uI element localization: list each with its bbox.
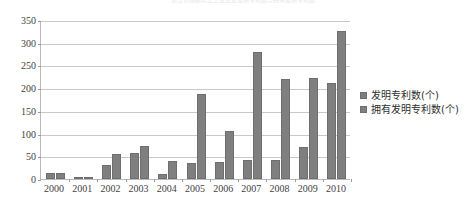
bar[interactable]	[140, 146, 149, 179]
bar-group	[46, 21, 65, 179]
x-axis-tick	[351, 179, 352, 182]
x-axis-tick-label: 2002	[96, 183, 124, 195]
x-axis-tick-label: 2004	[153, 183, 181, 195]
bar[interactable]	[84, 177, 93, 179]
bar-group	[299, 21, 318, 179]
x-axis-tick	[69, 179, 70, 182]
bar[interactable]	[253, 52, 262, 179]
y-axis-labels: 050100150200250300350	[0, 0, 36, 190]
x-axis-tick-label: 2010	[322, 183, 350, 195]
x-axis-tick-label: 2003	[125, 183, 153, 195]
bar-group	[215, 21, 234, 179]
x-axis-tick	[210, 179, 211, 182]
bar[interactable]	[130, 153, 139, 179]
bar[interactable]	[215, 162, 224, 179]
y-axis-tick-label: 350	[2, 16, 36, 26]
legend-item-label: 发明专利数(个)	[371, 90, 439, 101]
y-axis-tick-label: 50	[2, 152, 36, 162]
y-axis-tick	[38, 44, 41, 45]
bar[interactable]	[187, 163, 196, 179]
y-axis-tick-label: 0	[2, 175, 36, 185]
x-axis-tick-label: 2008	[265, 183, 293, 195]
x-axis-tick	[97, 179, 98, 182]
x-axis-tick	[295, 179, 296, 182]
y-axis-tick	[38, 89, 41, 90]
bar-group	[158, 21, 177, 179]
bar-group	[130, 21, 149, 179]
bar[interactable]	[225, 131, 234, 179]
x-axis-tick	[126, 179, 127, 182]
x-axis-tick	[182, 179, 183, 182]
bar[interactable]	[158, 174, 167, 179]
bar[interactable]	[281, 79, 290, 179]
x-axis-tick	[238, 179, 239, 182]
bar[interactable]	[271, 160, 280, 179]
y-axis-tick	[38, 112, 41, 113]
bar-group	[187, 21, 206, 179]
y-axis-tick-label: 100	[2, 130, 36, 140]
bar[interactable]	[102, 165, 111, 179]
y-axis-tick-label: 150	[2, 107, 36, 117]
bar[interactable]	[46, 173, 55, 179]
x-axis-tick	[266, 179, 267, 182]
x-axis-labels: 2000200120022003200420052006200720082009…	[40, 183, 350, 203]
bar-group	[327, 21, 346, 179]
legend-item-label: 拥有发明专利数(个)	[371, 104, 459, 115]
chart-legend: 发明专利数(个) 拥有发明专利数(个)	[360, 90, 475, 118]
x-axis-tick-label: 2009	[294, 183, 322, 195]
x-axis-tick-label: 2000	[40, 183, 68, 195]
legend-swatch-icon	[360, 92, 367, 99]
legend-swatch-icon	[360, 106, 367, 113]
bar[interactable]	[309, 78, 318, 179]
x-axis-tick-label: 2005	[181, 183, 209, 195]
bar-chart: 浙江省规模以上工业企业发明专利数与拥有发明专利数 050100150200250…	[0, 0, 475, 222]
x-axis-tick	[323, 179, 324, 182]
bar[interactable]	[337, 31, 346, 179]
x-axis-tick	[154, 179, 155, 182]
y-axis-tick	[38, 66, 41, 67]
legend-item[interactable]: 发明专利数(个)	[360, 90, 475, 101]
legend-item[interactable]: 拥有发明专利数(个)	[360, 104, 475, 115]
plot-area	[40, 21, 350, 180]
bar[interactable]	[197, 94, 206, 179]
bar-group	[243, 21, 262, 179]
y-axis-tick-label: 250	[2, 61, 36, 71]
bar[interactable]	[327, 83, 336, 179]
bar[interactable]	[56, 173, 65, 179]
x-axis-tick-label: 2007	[237, 183, 265, 195]
bar[interactable]	[112, 154, 121, 179]
bar[interactable]	[168, 161, 177, 179]
bar[interactable]	[74, 177, 83, 179]
bar-group	[74, 21, 93, 179]
x-axis-tick-label: 2001	[68, 183, 96, 195]
bar[interactable]	[299, 147, 308, 179]
chart-title: 浙江省规模以上工业企业发明专利数与拥有发明专利数	[105, 0, 380, 4]
y-axis-tick-label: 200	[2, 84, 36, 94]
bar-group	[102, 21, 121, 179]
bar[interactable]	[243, 160, 252, 179]
bar-group	[271, 21, 290, 179]
y-axis-tick-label: 300	[2, 39, 36, 49]
y-axis-tick	[38, 180, 41, 181]
y-axis-tick	[38, 157, 41, 158]
x-axis-tick-label: 2006	[209, 183, 237, 195]
y-axis-tick	[38, 135, 41, 136]
y-axis-tick	[38, 21, 41, 22]
